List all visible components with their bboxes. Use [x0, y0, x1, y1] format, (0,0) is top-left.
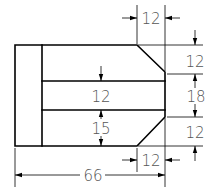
arrowhead — [193, 74, 197, 81]
part-outline — [15, 45, 165, 146]
arrowhead — [15, 173, 22, 177]
arrowhead — [130, 16, 137, 20]
arrowhead — [130, 158, 137, 162]
arrowhead — [99, 74, 103, 81]
arrowhead — [193, 146, 197, 153]
outer-profile — [15, 45, 165, 146]
dimension-text: 15 — [91, 120, 110, 138]
arrowhead — [193, 38, 197, 45]
dimension-text: 66 — [83, 167, 102, 185]
dim-top-chamfer-width: 12 — [122, 5, 180, 71]
dim-inner: 12 15 — [91, 66, 110, 146]
arrowhead — [165, 16, 172, 20]
dimension-text: 12 — [185, 53, 204, 71]
dimension-text: 12 — [141, 152, 160, 170]
arrowhead — [165, 158, 172, 162]
arrowhead — [193, 110, 197, 117]
dimension-text: 12 — [141, 10, 160, 28]
dimension-text: 12 — [91, 88, 110, 106]
dimension-text: 12 — [185, 124, 204, 142]
arrowhead — [99, 110, 103, 117]
arrowhead — [99, 139, 103, 146]
dimension-text: 18 — [186, 88, 205, 106]
technical-drawing: 12 12 18 12 12 15 — [0, 0, 216, 192]
dim-right-stack: 12 18 12 — [138, 30, 206, 161]
arrowhead — [158, 173, 165, 177]
